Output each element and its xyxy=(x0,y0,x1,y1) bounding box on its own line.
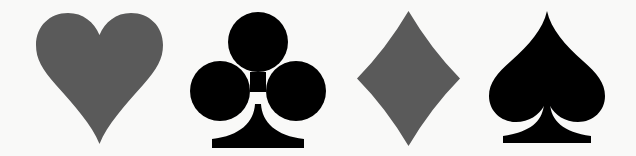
heart-shape xyxy=(36,13,163,144)
heart-icon: heart xyxy=(36,13,163,144)
club-icon: club xyxy=(190,12,326,148)
spade-icon: spade xyxy=(489,11,605,146)
club-shape xyxy=(190,12,326,148)
diamond-shape xyxy=(357,11,460,146)
diamond-icon: diamond xyxy=(357,11,460,146)
spade-shape xyxy=(489,11,605,146)
